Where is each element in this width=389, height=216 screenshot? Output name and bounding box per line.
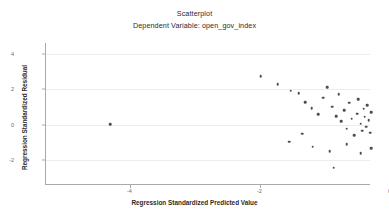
scatterplot-figure: Scatterplot Dependent Variable: open_gov… [0,0,389,216]
gridline-y [45,89,370,90]
scatter-point [353,134,356,137]
y-tick-mark [42,89,45,90]
scatter-point [331,105,334,108]
scatter-point [332,166,335,169]
scatter-point [369,132,372,135]
scatter-point [343,109,346,112]
scatter-point [345,143,348,146]
scatter-point [356,112,359,115]
scatter-point [326,86,329,89]
scatter-point [360,122,363,125]
y-tick-label: 2 [11,86,14,92]
scatter-point [304,101,307,104]
y-tick-mark [42,124,45,125]
scatter-point [370,111,373,114]
scatter-point [348,101,351,104]
page-title: Scatterplot [0,9,389,18]
scatter-point [301,133,304,136]
scatter-point [289,89,292,92]
scatter-point [288,140,291,143]
scatter-point [360,152,363,155]
y-tick-label: -2 [9,157,14,163]
scatter-point [370,147,373,150]
x-tick-label: -2 [257,188,262,194]
y-tick-label: 4 [11,51,14,57]
scatter-point [366,104,369,107]
scatter-point [351,117,354,120]
scatter-point [276,83,279,86]
y-tick-label: 0 [11,122,14,128]
scatter-point [338,93,341,96]
scatter-point [317,113,320,116]
scatter-point [367,119,370,122]
scatter-point [312,145,315,148]
scatter-point [109,123,112,126]
chart-subtitle: Dependent Variable: open_gov_index [0,21,389,30]
scatter-point [365,125,368,128]
gridline-y [45,160,370,161]
x-tick-label: -4 [127,188,132,194]
scatter-point [322,96,325,99]
y-tick-mark [42,160,45,161]
y-axis-title: Regression Standardized Residual [21,48,28,188]
scatter-point [328,150,331,153]
scatter-point [345,127,348,130]
scatter-point [297,92,300,95]
scatter-point [364,116,367,119]
scatter-point [357,98,360,101]
gridline-y [45,125,370,126]
scatter-point [335,115,338,118]
scatter-point [310,107,313,110]
x-axis-title: Regression Standardized Predicted Value [0,199,389,206]
scatter-point [260,75,263,78]
scatter-point [340,120,343,123]
scatter-point [361,129,364,132]
plot-area [45,43,370,185]
gridline-y [45,54,370,55]
y-tick-mark [42,53,45,54]
scatter-point [362,107,365,110]
